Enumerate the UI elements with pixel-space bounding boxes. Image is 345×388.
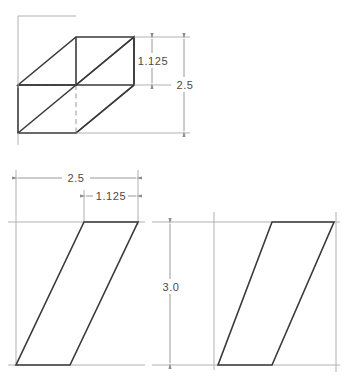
front-view [8, 222, 145, 365]
side-view-parallelogram [218, 222, 334, 365]
dimension-front-offset: 1.125 [86, 188, 136, 203]
side-view-extension-lines [214, 212, 340, 372]
side-view [214, 212, 340, 372]
engineering-drawing-canvas: 1.125 2.5 2.5 [0, 0, 345, 388]
dimension-iso-height-upper: 1.125 [138, 39, 169, 83]
front-view-dimension-group: 2.5 1.125 [16, 170, 138, 365]
dim-label-side-height: 3.0 [162, 281, 179, 293]
iso-lower-diagonal [18, 85, 76, 133]
dimension-iso-height-overall: 2.5 [171, 39, 198, 131]
drawing-sheet: 1.125 2.5 2.5 [0, 0, 345, 388]
front-view-parallelogram [16, 222, 138, 365]
dimension-side-height: 3.0 [152, 212, 214, 370]
dimension-front-width-overall: 2.5 [18, 170, 136, 185]
iso-upper-diagonal [76, 37, 134, 85]
iso-lower-right-diagonal [76, 85, 134, 133]
isometric-view: 1.125 2.5 [18, 16, 198, 145]
dim-label-iso-height-overall: 2.5 [176, 79, 193, 91]
front-view-extension-lines [8, 222, 145, 365]
dim-label-iso-height-upper: 1.125 [138, 55, 169, 67]
dim-label-front-width-overall: 2.5 [67, 172, 84, 184]
iso-upper-body [18, 37, 134, 85]
iso-extension-lines [18, 16, 190, 145]
dim-label-front-offset: 1.125 [96, 190, 127, 202]
